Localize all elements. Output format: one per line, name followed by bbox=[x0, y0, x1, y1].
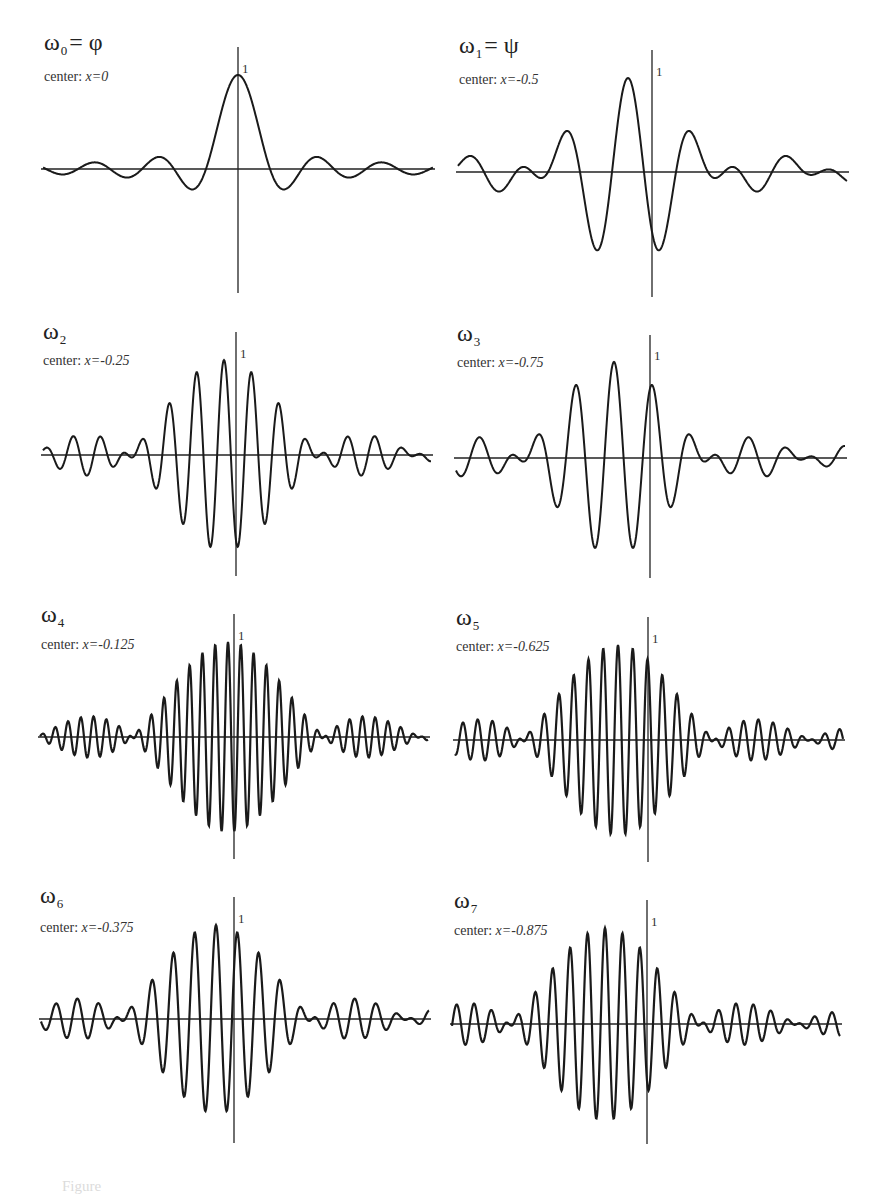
function-curve bbox=[452, 928, 840, 1118]
y-tick-one: 1 bbox=[651, 915, 658, 928]
center-value: x=-0.875 bbox=[496, 923, 548, 938]
figure-caption: Figure bbox=[62, 1178, 101, 1195]
plot-title: ω7 bbox=[454, 888, 479, 921]
center-label-text: center: bbox=[454, 923, 496, 938]
omega-symbol: ω bbox=[454, 887, 470, 913]
center-label: center: x=-0.875 bbox=[454, 924, 547, 938]
omega-index: 7 bbox=[471, 901, 478, 916]
